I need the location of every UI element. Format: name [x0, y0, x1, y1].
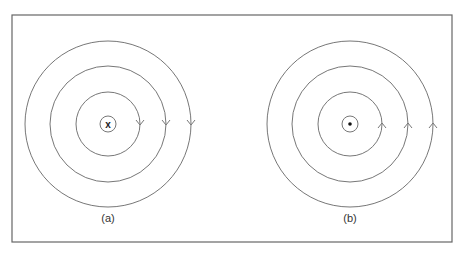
- panel-b-current-out-of-page: (b): [267, 41, 437, 224]
- current-into-page-icon: x: [105, 119, 111, 130]
- current-out-of-page-icon: [348, 122, 352, 126]
- panel-label: (b): [343, 212, 356, 224]
- magnetic-field-diagram: x(a) (b): [0, 0, 463, 253]
- panel-a-current-into-page: x(a): [25, 41, 195, 224]
- panel-label: (a): [101, 212, 114, 224]
